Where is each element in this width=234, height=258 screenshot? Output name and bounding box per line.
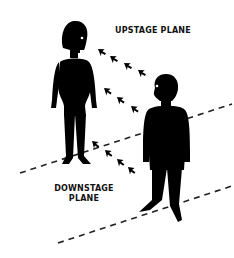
man-figure xyxy=(139,74,190,222)
diagram-canvas xyxy=(0,0,234,258)
gaze-arrows-bottom xyxy=(89,139,137,177)
gaze-arrows-top xyxy=(96,46,148,78)
downstage-label-line2: PLANE xyxy=(52,194,116,204)
stage-diagram: UPSTAGE PLANE DOWNSTAGE PLANE xyxy=(0,0,234,258)
woman-eye-icon xyxy=(81,37,84,40)
downstage-plane-label: DOWNSTAGE PLANE xyxy=(52,184,116,204)
man-eye-icon xyxy=(156,85,159,88)
downstage-label-line1: DOWNSTAGE xyxy=(52,184,116,194)
upstage-plane-line xyxy=(20,104,232,173)
woman-figure xyxy=(51,21,97,164)
gaze-arrows-middle xyxy=(101,85,140,115)
upstage-plane-label: UPSTAGE PLANE xyxy=(115,26,191,36)
